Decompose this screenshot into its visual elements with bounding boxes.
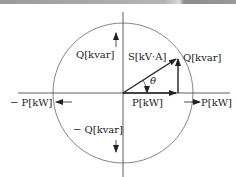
s-vector-label: S[kV·A] <box>128 51 166 62</box>
theta-label: θ <box>150 75 156 86</box>
p-positive-label: P[kW] <box>201 97 232 108</box>
neg-q-label: − Q[kvar] <box>73 124 123 135</box>
power-phasor-diagram: Q[kvar] S[kV·A] Q[kvar] θ − P[kW] P[kW] … <box>0 0 236 177</box>
theta-arc <box>143 80 147 93</box>
q-vector-label: Q[kvar] <box>183 52 222 63</box>
q-positive-label: Q[kvar] <box>76 49 115 60</box>
p-origin-label: P[kW] <box>132 97 163 108</box>
neg-p-label: − P[kW] <box>10 97 53 108</box>
